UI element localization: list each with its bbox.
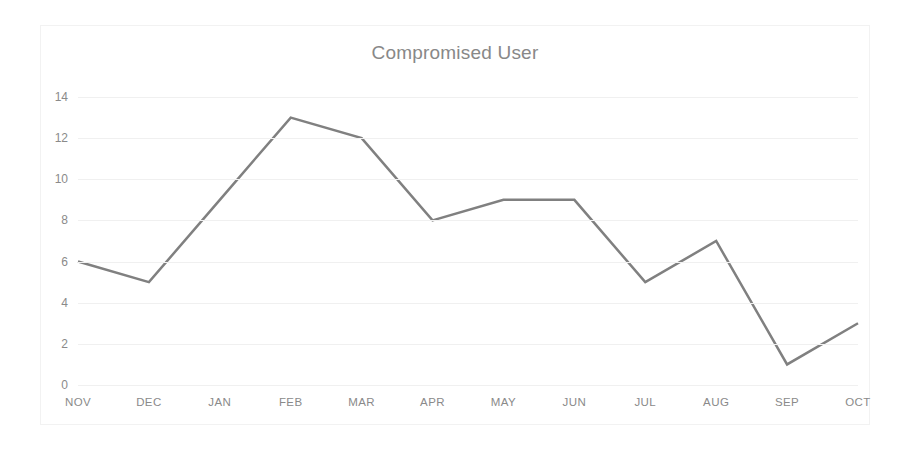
gridline-y-4	[78, 303, 858, 304]
y-axis-tick-labels: 14121086420	[34, 97, 68, 385]
y-tick-label: 4	[34, 296, 68, 310]
x-tick-label-feb: FEB	[279, 396, 303, 408]
series-polyline	[78, 118, 858, 365]
y-tick-label: 10	[34, 172, 68, 186]
x-tick-label-dec: DEC	[136, 396, 161, 408]
chart-title: Compromised User	[40, 42, 870, 64]
y-tick-label: 0	[34, 378, 68, 392]
y-tick-label: 12	[34, 131, 68, 145]
line-series-compromised-user	[78, 97, 858, 385]
gridline-y-10	[78, 179, 858, 180]
x-tick-label-nov: NOV	[65, 396, 91, 408]
x-tick-label-jan: JAN	[208, 396, 231, 408]
x-tick-label-jul: JUL	[634, 396, 656, 408]
x-axis-tick-labels: NOVDECJANFEBMARAPRMAYJUNJULAUGSEPOCT	[78, 396, 858, 416]
x-tick-label-jun: JUN	[563, 396, 587, 408]
x-tick-label-may: MAY	[491, 396, 516, 408]
y-tick-label: 14	[34, 90, 68, 104]
gridline-y-8	[78, 220, 858, 221]
gridline-y-12	[78, 138, 858, 139]
gridline-y-0	[78, 385, 858, 386]
gridline-y-14	[78, 97, 858, 98]
x-tick-label-oct: OCT	[845, 396, 870, 408]
plot-area	[78, 97, 858, 385]
y-tick-label: 6	[34, 255, 68, 269]
y-tick-label: 8	[34, 213, 68, 227]
x-tick-label-sep: SEP	[775, 396, 799, 408]
y-tick-label: 2	[34, 337, 68, 351]
x-tick-label-mar: MAR	[348, 396, 375, 408]
chart-container: Compromised User 14121086420 NOVDECJANFE…	[0, 0, 910, 452]
x-tick-label-apr: APR	[420, 396, 445, 408]
gridline-y-6	[78, 262, 858, 263]
gridline-y-2	[78, 344, 858, 345]
x-tick-label-aug: AUG	[703, 396, 729, 408]
